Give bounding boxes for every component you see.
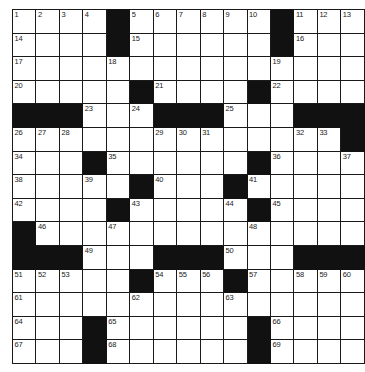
numbered-cell[interactable]: 4 xyxy=(83,10,106,34)
cell[interactable] xyxy=(36,33,59,57)
cell[interactable] xyxy=(177,198,200,222)
cell[interactable] xyxy=(294,80,317,104)
numbered-cell[interactable]: 29 xyxy=(153,127,176,151)
cell[interactable] xyxy=(200,316,223,340)
cell[interactable] xyxy=(247,245,270,269)
numbered-cell[interactable]: 55 xyxy=(177,269,200,293)
numbered-cell[interactable]: 28 xyxy=(59,127,82,151)
cell[interactable] xyxy=(153,316,176,340)
numbered-cell[interactable]: 2 xyxy=(36,10,59,34)
cell[interactable] xyxy=(106,80,129,104)
numbered-cell[interactable]: 30 xyxy=(177,127,200,151)
cell[interactable] xyxy=(83,269,106,293)
cell[interactable] xyxy=(317,340,340,364)
cell[interactable] xyxy=(224,33,247,57)
numbered-cell[interactable]: 23 xyxy=(83,104,106,128)
numbered-cell[interactable]: 64 xyxy=(13,316,36,340)
cell[interactable] xyxy=(317,175,340,199)
numbered-cell[interactable]: 41 xyxy=(247,175,270,199)
numbered-cell[interactable]: 13 xyxy=(341,10,365,34)
numbered-cell[interactable]: 47 xyxy=(106,222,129,246)
numbered-cell[interactable]: 68 xyxy=(106,340,129,364)
cell[interactable] xyxy=(59,293,82,317)
cell[interactable] xyxy=(59,340,82,364)
cell[interactable] xyxy=(83,80,106,104)
cell[interactable] xyxy=(247,127,270,151)
cell[interactable] xyxy=(36,175,59,199)
numbered-cell[interactable]: 60 xyxy=(341,269,365,293)
numbered-cell[interactable]: 26 xyxy=(13,127,36,151)
cell[interactable] xyxy=(177,151,200,175)
cell[interactable] xyxy=(177,57,200,81)
crossword-grid[interactable]: 1234567891011121314151617181920212223242… xyxy=(12,9,365,364)
numbered-cell[interactable]: 35 xyxy=(106,151,129,175)
cell[interactable] xyxy=(130,222,153,246)
cell[interactable] xyxy=(83,127,106,151)
cell[interactable] xyxy=(247,293,270,317)
cell[interactable] xyxy=(106,245,129,269)
numbered-cell[interactable]: 22 xyxy=(270,80,293,104)
numbered-cell[interactable]: 52 xyxy=(36,269,59,293)
cell[interactable] xyxy=(177,80,200,104)
cell[interactable] xyxy=(83,33,106,57)
cell[interactable] xyxy=(247,57,270,81)
cell[interactable] xyxy=(270,245,293,269)
numbered-cell[interactable]: 31 xyxy=(200,127,223,151)
cell[interactable] xyxy=(130,127,153,151)
cell[interactable] xyxy=(341,57,365,81)
numbered-cell[interactable]: 9 xyxy=(224,10,247,34)
cell[interactable] xyxy=(294,340,317,364)
numbered-cell[interactable]: 1 xyxy=(13,10,36,34)
cell[interactable] xyxy=(270,269,293,293)
cell[interactable] xyxy=(36,80,59,104)
numbered-cell[interactable]: 7 xyxy=(177,10,200,34)
numbered-cell[interactable]: 25 xyxy=(224,104,247,128)
numbered-cell[interactable]: 38 xyxy=(13,175,36,199)
cell[interactable] xyxy=(59,175,82,199)
cell[interactable] xyxy=(153,198,176,222)
numbered-cell[interactable]: 8 xyxy=(200,10,223,34)
cell[interactable] xyxy=(200,340,223,364)
cell[interactable] xyxy=(294,175,317,199)
numbered-cell[interactable]: 69 xyxy=(270,340,293,364)
numbered-cell[interactable]: 48 xyxy=(247,222,270,246)
cell[interactable] xyxy=(130,316,153,340)
cell[interactable] xyxy=(177,175,200,199)
numbered-cell[interactable]: 58 xyxy=(294,269,317,293)
cell[interactable] xyxy=(153,151,176,175)
cell[interactable] xyxy=(200,293,223,317)
numbered-cell[interactable]: 63 xyxy=(224,293,247,317)
cell[interactable] xyxy=(177,222,200,246)
numbered-cell[interactable]: 66 xyxy=(270,316,293,340)
cell[interactable] xyxy=(106,104,129,128)
cell[interactable] xyxy=(270,127,293,151)
numbered-cell[interactable]: 39 xyxy=(83,175,106,199)
cell[interactable] xyxy=(317,293,340,317)
cell[interactable] xyxy=(130,151,153,175)
cell[interactable] xyxy=(317,222,340,246)
numbered-cell[interactable]: 6 xyxy=(153,10,176,34)
cell[interactable] xyxy=(106,127,129,151)
numbered-cell[interactable]: 19 xyxy=(270,57,293,81)
numbered-cell[interactable]: 21 xyxy=(153,80,176,104)
numbered-cell[interactable]: 14 xyxy=(13,33,36,57)
numbered-cell[interactable]: 67 xyxy=(13,340,36,364)
cell[interactable] xyxy=(59,151,82,175)
cell[interactable] xyxy=(36,57,59,81)
cell[interactable] xyxy=(130,340,153,364)
cell[interactable] xyxy=(341,340,365,364)
numbered-cell[interactable]: 40 xyxy=(153,175,176,199)
cell[interactable] xyxy=(270,104,293,128)
cell[interactable] xyxy=(317,198,340,222)
cell[interactable] xyxy=(294,198,317,222)
cell[interactable] xyxy=(177,340,200,364)
numbered-cell[interactable]: 43 xyxy=(130,198,153,222)
cell[interactable] xyxy=(59,57,82,81)
cell[interactable] xyxy=(317,57,340,81)
cell[interactable] xyxy=(341,80,365,104)
cell[interactable] xyxy=(36,340,59,364)
numbered-cell[interactable]: 16 xyxy=(294,33,317,57)
numbered-cell[interactable]: 10 xyxy=(247,10,270,34)
numbered-cell[interactable]: 37 xyxy=(341,151,365,175)
cell[interactable] xyxy=(224,222,247,246)
